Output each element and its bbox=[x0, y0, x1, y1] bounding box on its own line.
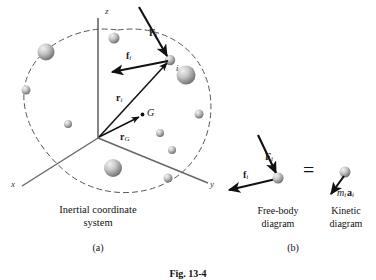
kinetic-particle bbox=[340, 167, 351, 178]
mass-center-point-G bbox=[141, 113, 145, 117]
vector-mass-center-rG bbox=[99, 117, 139, 137]
axis-label-z: z bbox=[105, 7, 109, 16]
axis-label-x: x bbox=[11, 180, 15, 189]
subscript-i: i bbox=[155, 31, 157, 39]
free-body-diagram-vectors bbox=[229, 135, 284, 190]
subscript-i: i bbox=[120, 96, 122, 104]
caption-free-body-line1: Free-body bbox=[226, 206, 330, 216]
axis-label-y: y bbox=[210, 180, 214, 189]
force-vectors-panel-a bbox=[99, 7, 168, 137]
caption-inertial-coordinate-line2: system bbox=[33, 218, 163, 229]
label-inertia-term-mi-ai: mi ai bbox=[337, 188, 354, 199]
label-fbd-external-force-Fi: Fi bbox=[265, 152, 273, 163]
panel-label-a: (a) bbox=[73, 243, 123, 253]
caption-kinetic-line2: diagram bbox=[316, 219, 376, 229]
figure-number: Fig. 13-4 bbox=[148, 269, 228, 279]
system-particles bbox=[22, 33, 204, 183]
fbd-particle bbox=[273, 173, 284, 184]
caption-inertial-coordinate-line1: Inertial coordinate bbox=[33, 205, 163, 216]
figure-13-4: z x y Fi fi i ri rG G Inertial coordinat… bbox=[0, 0, 376, 280]
vector-fbd-internal-force-fi bbox=[229, 179, 276, 190]
subscript-i: i bbox=[129, 54, 131, 62]
subscript-i: i bbox=[246, 173, 248, 181]
label-position-vector-ri: ri bbox=[116, 93, 122, 104]
vector-position-ri bbox=[99, 63, 167, 137]
subscript-G: G bbox=[124, 135, 129, 143]
subscript-i: i bbox=[352, 191, 354, 199]
label-mass-center-vector-rG: rG bbox=[120, 132, 130, 143]
label-fbd-internal-force-fi: fi bbox=[243, 170, 248, 181]
label-internal-force-fi: fi bbox=[126, 51, 131, 62]
caption-free-body-line2: diagram bbox=[226, 219, 330, 229]
subscript-i: i bbox=[271, 155, 273, 163]
equals-sign: = bbox=[303, 160, 314, 180]
panel-label-b: (b) bbox=[268, 243, 318, 253]
figure-vector-graphics bbox=[0, 0, 376, 280]
label-mass-center-G: G bbox=[147, 108, 154, 118]
caption-kinetic-line1: Kinetic bbox=[316, 206, 376, 216]
label-particle-index-i: i bbox=[176, 64, 178, 73]
label-external-force-Fi: Fi bbox=[149, 28, 157, 39]
